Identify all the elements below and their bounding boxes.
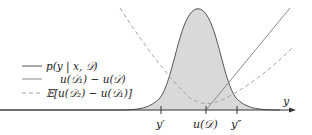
tick-label-y-prime: y′ [156, 119, 165, 130]
density-curve [0, 9, 280, 110]
density-fill [120, 9, 280, 110]
x-axis-arrow-icon [289, 108, 296, 113]
tick-label-u-D: u(𝒟) [193, 119, 218, 130]
x-axis-label: y [283, 96, 289, 107]
legend-label-density: p(y | x, 𝒟) [46, 61, 98, 72]
tick-label-y-double-prime: y″ [231, 119, 241, 130]
legend-label-expected: 𝔼[u(𝒟₂) − u(𝒟₁)] [46, 88, 132, 99]
legend-label-utility: u(𝒟₁) − u(𝒟) [60, 74, 126, 85]
